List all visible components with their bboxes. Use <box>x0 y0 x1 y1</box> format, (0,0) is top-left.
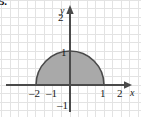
x-tick-label-2: 2 <box>117 88 123 99</box>
figure-number: 5. <box>0 0 7 7</box>
x-tick-label-neg2: –2 <box>29 88 40 99</box>
y-tick-label-1: 1 <box>61 47 67 58</box>
x-axis-name-label: x <box>130 88 134 98</box>
plot-svg <box>0 0 141 117</box>
y-axis-arrow-icon <box>66 5 73 14</box>
y-tick-label-neg1: –1 <box>57 100 68 111</box>
x-tick-label-neg1: –1 <box>46 88 57 99</box>
x-tick-label-1: 1 <box>100 88 106 99</box>
y-axis-name-label: y <box>60 6 64 16</box>
figure-container: 5. 2 1 –1 –2 –1 1 2 y x <box>0 0 141 117</box>
